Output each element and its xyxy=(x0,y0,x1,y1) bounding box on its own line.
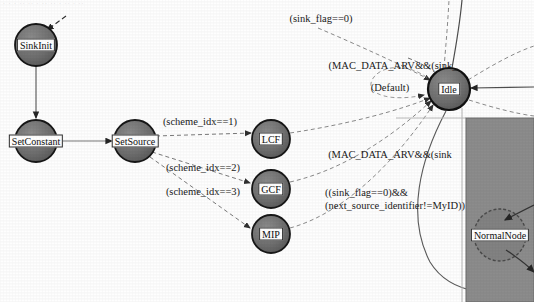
edge-label-scheme-idx-1: (scheme_idx==1) xyxy=(163,116,237,128)
node-label-setsource[interactable]: SetSource xyxy=(112,135,159,148)
node-label-sinkinit[interactable]: SinkInit xyxy=(17,39,55,52)
node-label-lcf[interactable]: LCF xyxy=(259,133,283,146)
edge-idle-topright-dashed xyxy=(468,46,534,80)
node-label-setconstant[interactable]: SetConstant xyxy=(9,135,63,148)
edge-label-sink-flag-myid-2: (next_source_identifier!=MyID)) xyxy=(325,200,465,212)
edge-entry-sinkinit xyxy=(47,16,66,30)
edge-idle-top-dashed xyxy=(444,0,449,68)
normal-node-panel-group xyxy=(466,118,534,302)
node-label-gcf[interactable]: GCF xyxy=(258,183,283,196)
edge-lcf-idle xyxy=(290,98,430,133)
diagram-canvas: · · · ·· ·· · ·· ·· · ·· · ·· xyxy=(0,0,534,302)
edge-idle-right-lower-dashed xyxy=(469,100,534,116)
node-label-mip[interactable]: MIP xyxy=(259,228,283,241)
edge-label-scheme-idx-2: (scheme_idx==2) xyxy=(166,162,240,174)
edge-idle-top-solid xyxy=(452,0,462,68)
node-label-idle[interactable]: Idle xyxy=(438,83,460,96)
node-layer xyxy=(15,24,470,253)
node-label-normalnode[interactable]: NormalNode xyxy=(471,229,529,242)
edge-label-sink-flag-myid: ((sink_flag==0)&& xyxy=(325,187,408,199)
edge-label-mac-arv-bottom: (MAC_DATA_ARV&&(sink xyxy=(328,149,452,161)
scan-header-artifact: · · · ·· ·· · ·· ·· · ·· · ·· xyxy=(3,1,84,7)
edge-label-scheme-idx-3: (scheme_idx==3) xyxy=(166,186,240,198)
edge-label-default: (Default) xyxy=(371,82,409,94)
diagram-vector-layer xyxy=(0,0,534,302)
edge-setsource-lcf xyxy=(156,133,251,136)
edge-gcf-idle xyxy=(290,101,431,182)
edge-right-into-idle xyxy=(471,87,534,88)
edge-label-mac-arv-top: (MAC_DATA_ARV&&(sink_ xyxy=(329,60,458,72)
edge-sinkflag-idle xyxy=(318,28,430,80)
edge-label-sink-flag-0: (sink_flag==0) xyxy=(289,13,352,25)
